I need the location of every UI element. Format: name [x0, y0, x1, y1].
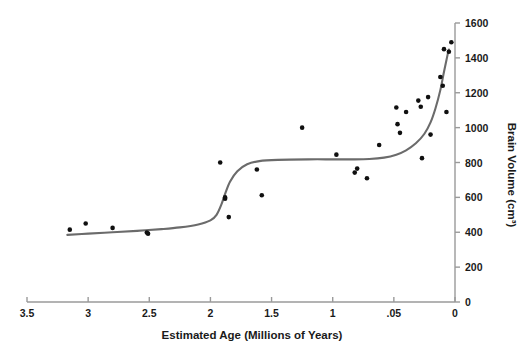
- data-point: [334, 152, 339, 157]
- data-point: [83, 221, 88, 226]
- trend-curve: [67, 50, 449, 235]
- data-point: [218, 160, 223, 165]
- data-point: [398, 131, 403, 136]
- y-tick-label: 1400: [465, 52, 489, 64]
- data-point: [404, 110, 409, 115]
- data-point: [420, 156, 425, 161]
- data-point: [110, 226, 115, 231]
- data-point: [377, 143, 382, 148]
- chart-svg: 3.532.521.51.050 02004006008001000120014…: [0, 0, 521, 357]
- x-tick-label: 2: [208, 307, 214, 319]
- y-axis-title: Brain Volume (cm³): [506, 123, 518, 228]
- brain-volume-chart: 3.532.521.51.050 02004006008001000120014…: [0, 0, 521, 357]
- y-tick-label: 1200: [465, 87, 489, 99]
- y-axis: 02004006008001000120014001600: [455, 17, 489, 308]
- data-point: [146, 231, 151, 236]
- data-point: [394, 105, 399, 110]
- data-point: [365, 176, 370, 181]
- y-tick-label: 600: [465, 191, 483, 203]
- y-tick-label: 200: [465, 261, 483, 273]
- y-tick-label: 400: [465, 226, 483, 238]
- y-tick-label: 0: [465, 296, 471, 308]
- data-point: [223, 196, 228, 201]
- data-point: [438, 75, 443, 80]
- x-tick-label: 1: [330, 307, 336, 319]
- data-point: [259, 193, 264, 198]
- data-point: [226, 215, 231, 220]
- x-tick-label: .05: [387, 307, 402, 319]
- data-point: [444, 110, 449, 115]
- x-tick-label: 0: [452, 307, 458, 319]
- y-tick-label: 1000: [465, 122, 489, 134]
- data-point: [440, 83, 445, 88]
- data-point: [428, 132, 433, 137]
- y-tick-label: 800: [465, 157, 483, 169]
- data-point: [300, 125, 305, 130]
- x-tick-label: 3.5: [20, 307, 35, 319]
- data-point: [255, 167, 260, 172]
- x-axis-title: Estimated Age (Millions of Years): [162, 329, 343, 341]
- x-tick-label: 2.5: [142, 307, 157, 319]
- trend-curve-path: [67, 50, 449, 235]
- data-point: [447, 49, 452, 54]
- x-tick-label: 1.5: [264, 307, 279, 319]
- data-point: [416, 98, 421, 103]
- data-point: [395, 122, 400, 127]
- data-point: [355, 166, 360, 171]
- data-point: [68, 227, 73, 232]
- data-points: [68, 40, 454, 236]
- y-tick-label: 1600: [465, 17, 489, 29]
- data-point: [442, 47, 447, 52]
- data-point: [449, 40, 454, 45]
- x-axis: 3.532.521.51.050: [20, 297, 458, 319]
- data-point: [352, 170, 357, 175]
- data-point: [418, 104, 423, 109]
- data-point: [426, 95, 431, 100]
- x-tick-label: 3: [85, 307, 91, 319]
